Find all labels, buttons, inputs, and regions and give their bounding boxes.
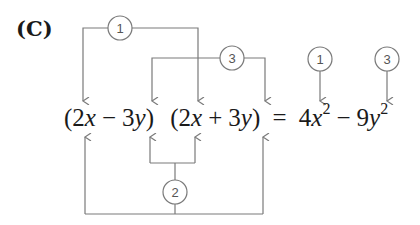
svg-text:1: 1 [316,52,323,67]
equals-sign: = [266,104,292,132]
step1-top-circle-icon: 1 [108,16,132,40]
step2-inner-terms-connector [150,137,195,180]
step3-top-circle-icon: 3 [220,46,244,70]
svg-text:2: 2 [171,185,178,200]
equation: (2x−3y) (2x+3y) = 4x2−9y2 [64,104,388,132]
step3-last-terms-connector [152,58,265,101]
factor-2: (2x+3y) [170,104,260,132]
svg-text:1: 1 [116,21,123,36]
svg-text:3: 3 [383,52,390,67]
factor-1: (2x−3y) [64,104,154,132]
step1-result-circle-icon: 1 [308,47,332,71]
step2-bottom-circle-icon: 2 [163,180,187,204]
result: 4x2−9y2 [299,104,388,132]
svg-text:3: 3 [228,51,235,66]
step3-result-circle-icon: 3 [375,47,399,71]
step1-first-terms-connector [83,28,198,101]
